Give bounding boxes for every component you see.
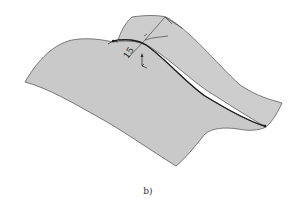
curve-end-point [264,125,266,127]
surface-drawing: 15 [0,0,296,208]
figure-caption: b) [0,186,296,196]
curve-start-point [112,40,114,42]
figure: 15 b) [0,0,296,208]
